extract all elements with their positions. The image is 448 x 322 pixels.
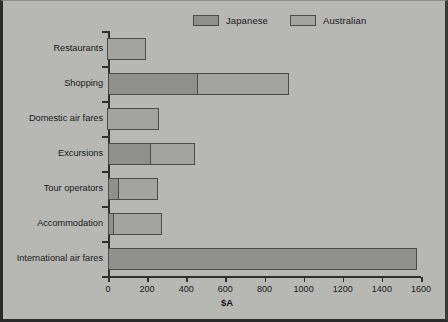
bar-segment-japanese[interactable] <box>108 73 198 95</box>
bar-row[interactable] <box>108 178 158 200</box>
bar-segment-australian[interactable] <box>197 73 289 95</box>
x-axis-tick <box>382 277 384 282</box>
x-axis-title: $A <box>3 297 448 308</box>
bar-row[interactable] <box>108 143 195 165</box>
y-axis-category-label: Restaurants <box>3 43 103 53</box>
x-axis-tick <box>265 277 267 282</box>
x-axis-tick <box>304 277 306 282</box>
x-axis-tick-label: 0 <box>105 284 110 294</box>
bar-segment-australian[interactable] <box>150 143 195 165</box>
y-axis-tick <box>102 171 108 173</box>
y-axis-category-label: Domestic air fares <box>3 113 103 123</box>
bar-segment-japanese[interactable] <box>108 143 151 165</box>
y-axis-tick <box>102 276 108 278</box>
x-axis-tick-label: 800 <box>257 284 272 294</box>
legend-entry-japanese[interactable]: Japanese <box>193 15 268 26</box>
legend-label-australian: Australian <box>323 15 366 26</box>
bar-segment-australian[interactable] <box>107 108 159 130</box>
bar-segment-japanese[interactable] <box>108 248 417 270</box>
chart-legend: Japanese Australian <box>193 11 366 29</box>
y-axis-category-label: Tour operators <box>3 183 103 193</box>
x-axis-tick <box>421 277 423 282</box>
y-axis-tick <box>102 31 108 33</box>
legend-entry-australian[interactable]: Australian <box>290 15 366 26</box>
y-axis-tick <box>102 66 108 68</box>
bar-row[interactable] <box>108 38 146 60</box>
legend-swatch-australian <box>290 15 316 26</box>
legend-swatch-japanese <box>193 15 219 26</box>
chart-figure: Japanese Australian $A 02004006008001000… <box>0 0 448 322</box>
bar-row[interactable] <box>108 248 417 270</box>
y-axis-category-label: Accommodation <box>3 218 103 228</box>
bar-row[interactable] <box>108 73 289 95</box>
x-axis-tick-label: 1000 <box>294 284 314 294</box>
legend-label-japanese: Japanese <box>226 15 268 26</box>
x-axis-tick <box>186 277 188 282</box>
x-axis-tick-label: 1400 <box>372 284 392 294</box>
x-axis-tick-label: 400 <box>179 284 194 294</box>
bar-segment-australian[interactable] <box>113 213 162 235</box>
x-axis-tick-label: 200 <box>140 284 155 294</box>
y-axis-category-label: International air fares <box>3 253 103 263</box>
x-axis-tick <box>147 277 149 282</box>
bar-segment-australian[interactable] <box>118 178 158 200</box>
y-axis-tick <box>102 206 108 208</box>
x-axis-tick <box>108 277 110 282</box>
x-axis-tick-label: 1600 <box>411 284 431 294</box>
y-axis-category-label: Shopping <box>3 78 103 88</box>
bar-row[interactable] <box>108 213 162 235</box>
x-axis-tick <box>225 277 227 282</box>
x-axis-tick <box>343 277 345 282</box>
bar-segment-australian[interactable] <box>107 38 146 60</box>
y-axis-tick <box>102 136 108 138</box>
x-axis-tick-label: 600 <box>218 284 233 294</box>
y-axis-category-label: Excursions <box>3 148 103 158</box>
y-axis-tick <box>102 101 108 103</box>
x-axis-tick-label: 1200 <box>333 284 353 294</box>
bar-row[interactable] <box>108 108 159 130</box>
y-axis-tick <box>102 241 108 243</box>
